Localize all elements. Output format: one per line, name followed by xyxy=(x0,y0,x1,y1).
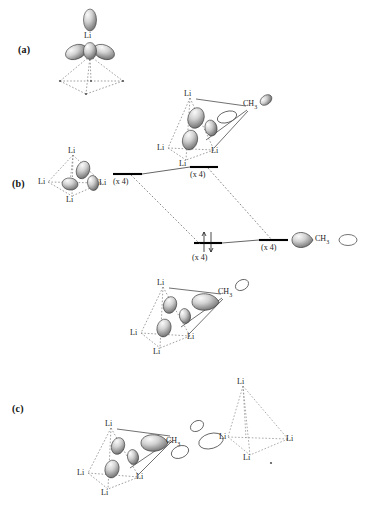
li4-li-right: Li xyxy=(99,178,106,187)
antibonding-li-top: Li xyxy=(184,89,191,98)
panel-label-b: (b) xyxy=(12,178,25,189)
antibonding-li-right: Li xyxy=(211,146,218,155)
bonding-li-right: Li xyxy=(187,332,194,341)
print-speck xyxy=(270,462,272,464)
panel-c-left-li-right: Li xyxy=(136,472,143,481)
panel-a-hybrid-lobes xyxy=(63,41,117,62)
panel-a-li-label: Li xyxy=(84,31,91,40)
ch3-fragment-label: CH3 xyxy=(315,234,329,245)
panel-a-tetrahedron-frame xyxy=(60,56,123,94)
mult-label-ch3: (x 4) xyxy=(261,243,276,252)
panel-c-left-li-front: Li xyxy=(101,488,108,497)
panel-c-ch3-label: CH3 xyxy=(166,436,180,447)
antibonding-li-front: Li xyxy=(179,159,186,168)
bonding-li-left: Li xyxy=(130,328,137,337)
bonding-ch3-label: CH3 xyxy=(218,287,232,298)
panel-c-right-li-left: Li xyxy=(219,432,226,441)
bonding-li-front: Li xyxy=(153,347,160,356)
figure-canvas: (a) (b) (c) Li Li Li Li Li CH3 Li Li Li … xyxy=(0,0,367,505)
panel-b-bonding-cluster xyxy=(141,277,251,348)
panel-a-graphic xyxy=(59,9,124,95)
antibonding-ch3-label: CH3 xyxy=(243,99,257,110)
panel-c-left-cluster xyxy=(88,418,206,489)
figure-vector-layer xyxy=(0,0,367,505)
panel-b-li4-cluster xyxy=(48,155,102,196)
li4-li-left: Li xyxy=(38,177,45,186)
antibonding-ch3-lobe xyxy=(216,109,238,126)
li4-li-front: Li xyxy=(66,195,73,204)
panel-c-right-li-top: Li xyxy=(237,377,244,386)
antibonding-outer-lobe xyxy=(258,92,274,107)
li4-li-top: Li xyxy=(68,146,75,155)
panel-c-left-li-top: Li xyxy=(105,419,112,428)
panel-c-left-li-left: Li xyxy=(77,468,84,477)
mult-label-li4: (x 4) xyxy=(113,177,128,186)
panel-label-a: (a) xyxy=(18,44,30,55)
panel-c-right-cluster xyxy=(228,386,288,455)
panel-a-s-orbital xyxy=(84,9,97,31)
panel-c-right-li-right: Li xyxy=(286,434,293,443)
panel-label-c: (c) xyxy=(12,403,24,414)
mult-label-antibonding: (x 4) xyxy=(190,170,205,179)
bonding-li-top: Li xyxy=(157,278,164,287)
panel-c-right-li-front: Li xyxy=(243,453,250,462)
mult-label-bonding: (x 4) xyxy=(192,253,207,262)
panel-b-antibonding-cluster xyxy=(168,92,274,160)
antibonding-li-left: Li xyxy=(157,143,164,152)
